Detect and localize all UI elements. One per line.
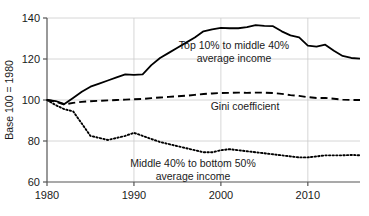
series-label-middle40-line2: average income xyxy=(156,170,231,182)
line-chart: 6080100120140 1980199020002010 Base 100 … xyxy=(0,0,369,216)
x-tick-label: 1980 xyxy=(35,189,59,201)
chart-container: 6080100120140 1980199020002010 Base 100 … xyxy=(0,0,369,216)
y-tick-label: 80 xyxy=(28,135,40,147)
x-tick-label: 2010 xyxy=(296,189,320,201)
series-label-top10-line1: Top 10% to middle 40% xyxy=(179,39,289,51)
y-tick-label: 100 xyxy=(22,94,40,106)
y-tick-label: 60 xyxy=(28,176,40,188)
y-axis-title: Base 100 = 1980 xyxy=(3,60,15,140)
series-line-1 xyxy=(47,93,360,105)
y-tick-label: 120 xyxy=(22,53,40,65)
y-axis-ticks: 6080100120140 xyxy=(22,12,47,188)
x-tick-label: 2000 xyxy=(209,189,233,201)
series-line-2 xyxy=(47,100,360,157)
series-label-gini: Gini coefficient xyxy=(211,100,280,112)
series-label-top10-line2: average income xyxy=(197,52,272,64)
series-label-middle40-line1: Middle 40% to bottom 50% xyxy=(130,157,256,169)
x-axis-ticks: 1980199020002010 xyxy=(35,182,320,201)
x-tick-label: 1990 xyxy=(122,189,146,201)
y-tick-label: 140 xyxy=(22,12,40,24)
series-line-0 xyxy=(47,25,360,104)
